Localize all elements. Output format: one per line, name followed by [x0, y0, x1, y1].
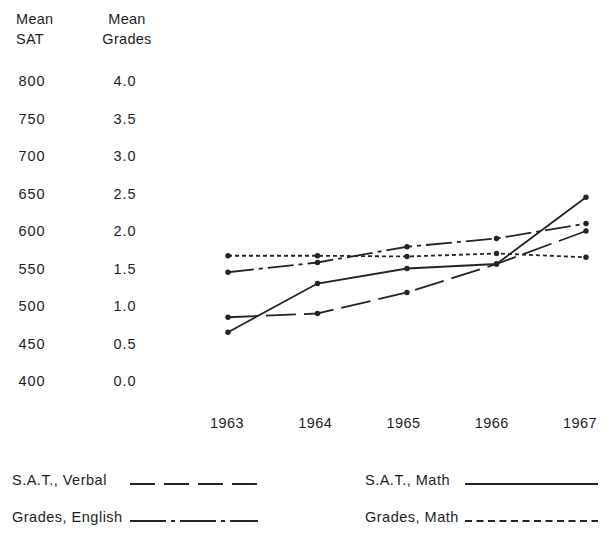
data-point-grades-english: [404, 244, 409, 249]
legend-line-grades-math: [465, 518, 598, 524]
data-point-s-a-t-math: [225, 330, 230, 335]
series-line-s-a-t-verbal: [228, 231, 586, 317]
legend-line-sat-verbal: [130, 481, 258, 487]
legend-label-sat-verbal: S.A.T., Verbal: [12, 471, 107, 489]
data-point-s-a-t-math: [404, 266, 409, 271]
legend-label-grades-math: Grades, Math: [365, 508, 459, 526]
legend-line-sat-math: [465, 481, 598, 487]
data-point-grades-english: [494, 236, 499, 241]
series-line-s-a-t-math: [228, 197, 586, 332]
data-point-s-a-t-verbal: [583, 228, 588, 233]
legend-line-grades-english: [130, 518, 258, 524]
data-point-grades-math: [315, 253, 320, 258]
data-point-grades-math: [583, 255, 588, 260]
plot-area: [0, 0, 611, 547]
sat-grades-chart: Mean SAT Mean Grades 8007507006506005505…: [0, 0, 611, 547]
data-point-grades-math: [404, 254, 409, 259]
data-point-s-a-t-math: [583, 195, 588, 200]
data-point-grades-math: [225, 253, 230, 258]
data-point-grades-english: [225, 270, 230, 275]
legend-label-grades-english: Grades, English: [12, 508, 123, 526]
data-point-grades-english: [583, 221, 588, 226]
data-point-grades-math: [494, 251, 499, 256]
data-point-s-a-t-verbal: [315, 311, 320, 316]
legend-label-sat-math: S.A.T., Math: [365, 471, 450, 489]
data-point-s-a-t-verbal: [404, 290, 409, 295]
data-point-s-a-t-verbal: [225, 315, 230, 320]
data-point-s-a-t-math: [494, 261, 499, 266]
data-point-grades-english: [315, 260, 320, 265]
data-point-s-a-t-math: [315, 281, 320, 286]
